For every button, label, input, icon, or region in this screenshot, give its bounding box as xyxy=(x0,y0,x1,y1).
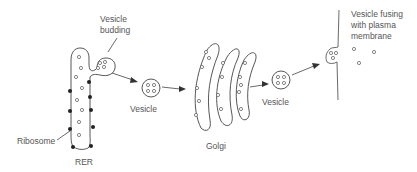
arrow-vesicle-to-membrane xyxy=(292,63,320,75)
leader-ribosome xyxy=(57,131,70,140)
vesicle-2 xyxy=(272,71,290,89)
label-vesicle-budding-1: Vesicle xyxy=(100,14,127,24)
label-vesicle-1: Vesicle xyxy=(130,104,157,114)
secretory-pathway-diagram: Vesicle budding Ribosome RER Vesicle xyxy=(0,0,417,172)
golgi-apparatus xyxy=(194,44,256,131)
label-vesicle-budding-2: budding xyxy=(100,25,131,35)
label-vesicle-2: Vesicle xyxy=(262,97,289,107)
label-fusing-1: Vesicle fusing xyxy=(351,9,403,19)
golgi-cisterna-2 xyxy=(217,49,240,126)
label-rer: RER xyxy=(75,157,93,167)
plasma-membrane xyxy=(326,10,339,100)
label-golgi: Golgi xyxy=(206,141,226,151)
membrane-line xyxy=(326,10,339,100)
arrow-vesicle-to-golgi xyxy=(162,86,186,92)
released-contents xyxy=(352,47,375,64)
rer-structure xyxy=(68,48,115,149)
vesicle-1 xyxy=(142,79,160,97)
label-fusing-3: membrane xyxy=(351,31,392,41)
golgi-cisterna-1 xyxy=(195,44,219,131)
label-ribosome: Ribosome xyxy=(17,136,56,146)
arrow-golgi-to-vesicle xyxy=(250,81,269,87)
arrow-rer-to-vesicle xyxy=(112,73,138,83)
leader-vesicle-budding xyxy=(108,38,117,52)
label-fusing-2: with plasma xyxy=(350,20,396,30)
